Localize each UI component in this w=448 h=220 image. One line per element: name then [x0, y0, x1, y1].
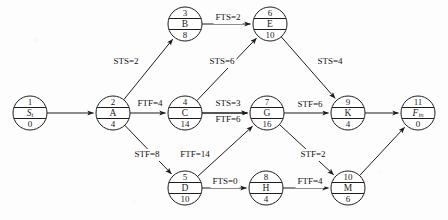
node-activity-label: G: [264, 108, 271, 118]
edge-label-2-3: STS=2: [113, 56, 138, 66]
node-9-K[interactable]: 9K4: [331, 96, 365, 130]
node-id-label: 5: [183, 172, 188, 182]
node-3-B[interactable]: 3B8: [168, 7, 202, 41]
node-8-H[interactable]: 8H4: [249, 171, 283, 205]
node-id-label: 4: [183, 97, 188, 107]
node-activity-label: E: [267, 19, 273, 29]
node-id-label: 6: [268, 8, 273, 18]
node-4-C[interactable]: 4C14: [168, 96, 202, 130]
node-1-S[interactable]: 1St0: [13, 96, 47, 130]
node-activity-label: B: [182, 19, 188, 29]
node-activity-label: K: [345, 108, 352, 118]
node-duration-label: 10: [181, 194, 191, 204]
node-duration-label: 8: [183, 30, 188, 40]
edge-label-6-9: STS=4: [317, 56, 343, 66]
edge-label-5-8: FTS=0: [212, 176, 238, 186]
edge-4-to-6: [197, 38, 257, 101]
node-duration-label: 6: [346, 194, 351, 204]
node-duration-label: 16: [263, 119, 273, 129]
node-activity-label: D: [182, 183, 189, 193]
node-id-label: 9: [346, 97, 351, 107]
node-id-label: 2: [111, 97, 116, 107]
node-duration-label: 4: [346, 119, 351, 129]
node-duration-label: 10: [266, 30, 276, 40]
node-id-label: 10: [344, 172, 354, 182]
node-activity-label: A: [110, 108, 117, 118]
node-duration-label: 4: [264, 194, 269, 204]
node-id-label: 1: [28, 97, 33, 107]
edge-label-8-10: FTF=4: [297, 176, 323, 186]
node-2-A[interactable]: 2A4: [96, 96, 130, 130]
node-duration-label: 0: [28, 119, 33, 129]
node-id-label: 8: [264, 172, 269, 182]
node-id-label: 7: [265, 97, 270, 107]
edge-2-to-3: [124, 39, 173, 100]
edge-10-to-11: [360, 127, 405, 175]
node-duration-label: 0: [416, 119, 421, 129]
edge-label-7-10: STF=2: [300, 149, 325, 159]
node-7-G[interactable]: 7G16: [250, 96, 284, 130]
edge-label-2-4: FTF=4: [137, 98, 163, 108]
edge-label-layer: STS=2FTF=4STF=8FTS=2STS=6STS=3FTF=6FTF=1…: [112, 12, 345, 188]
node-10-M[interactable]: 10M6: [331, 171, 365, 205]
edge-label-3-6: FTS=2: [215, 12, 240, 22]
node-activity-label: H: [263, 183, 270, 193]
edge-label-5-7: FTF=14: [180, 149, 210, 159]
edge-label-7-9: STF=6: [297, 99, 323, 109]
edge-label-2-5: STF=8: [134, 149, 160, 159]
node-activity-label: M: [344, 183, 353, 193]
edge-label-4-7: STS=3: [215, 98, 241, 108]
diagram-canvas: 1St02A43B84C145D106E107G168H49K410M611Fi…: [0, 0, 448, 220]
node-activity-label: C: [182, 108, 188, 118]
precedence-network-svg: 1St02A43B84C145D106E107G168H49K410M611Fi…: [0, 0, 448, 220]
node-duration-label: 14: [181, 119, 191, 129]
edge-label-4-6: STS=6: [209, 56, 235, 66]
edge-label-4-7b: FTF=6: [215, 114, 241, 124]
node-id-label: 3: [183, 8, 188, 18]
node-duration-label: 4: [111, 119, 116, 129]
node-11-F[interactable]: 11Fin0: [401, 96, 435, 130]
node-id-label: 11: [414, 97, 423, 107]
node-6-E[interactable]: 6E10: [253, 7, 287, 41]
node-5-D[interactable]: 5D10: [168, 171, 202, 205]
